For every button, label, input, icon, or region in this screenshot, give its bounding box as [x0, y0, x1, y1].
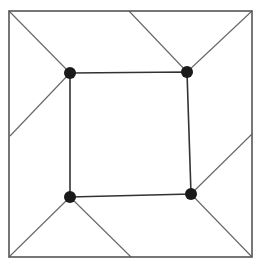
vertex-dot-top-left: [64, 67, 76, 79]
connector-line: [9, 197, 70, 257]
connector-line: [191, 134, 252, 194]
inner-square: [70, 72, 191, 197]
connector-line: [10, 73, 70, 136]
connector-line: [70, 197, 131, 257]
connector-line: [129, 11, 187, 72]
vertex-dot-bottom-right: [185, 188, 197, 200]
connector-line: [191, 194, 252, 257]
connector-line: [9, 11, 70, 73]
vertex-dots: [64, 66, 197, 203]
connector-line: [187, 11, 252, 72]
connector-lines: [9, 11, 252, 257]
vertex-dot-top-right: [181, 66, 193, 78]
nested-squares-diagram: [0, 0, 259, 266]
vertex-dot-bottom-left: [64, 191, 76, 203]
